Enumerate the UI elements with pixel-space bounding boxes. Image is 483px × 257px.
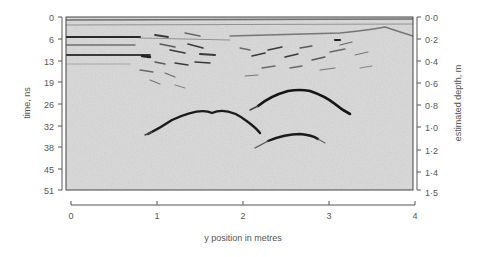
right-tick-label: 1·5 bbox=[425, 188, 438, 198]
left-tick-label: 26 bbox=[44, 100, 54, 110]
left-tick-label: 38 bbox=[44, 143, 54, 153]
left-tick-label: 0 bbox=[49, 13, 54, 23]
left-tick-label: 6 bbox=[49, 35, 54, 45]
right-tick-label: 0·0 bbox=[425, 13, 438, 23]
right-axis-title: estimated depth, m bbox=[453, 65, 463, 142]
left-tick-label: 51 bbox=[44, 186, 54, 196]
right-tick-label: 0·6 bbox=[425, 79, 438, 89]
x-tick-label: 0 bbox=[68, 211, 73, 221]
left-axis: 0 6 13 19 26 32 38 45 51 time, ns bbox=[22, 13, 62, 196]
right-tick-label: 0·4 bbox=[425, 57, 438, 67]
x-tick-label: 1 bbox=[154, 211, 159, 221]
left-tick-label: 13 bbox=[44, 57, 54, 67]
left-tick-label: 32 bbox=[44, 122, 54, 132]
left-axis-title: time, ns bbox=[22, 87, 32, 119]
right-tick-label: 1·0 bbox=[425, 123, 438, 133]
x-tick-label: 2 bbox=[240, 211, 245, 221]
left-tick-label: 45 bbox=[44, 165, 54, 175]
bottom-axis: 0 1 2 3 4 y position in metres bbox=[68, 201, 417, 243]
x-axis-title: y position in metres bbox=[204, 233, 282, 243]
right-tick-label: 0·8 bbox=[425, 101, 438, 111]
x-tick-label: 4 bbox=[412, 211, 417, 221]
right-axis: 0·0 0·2 0·4 0·6 0·8 1·0 1·2 1·4 1·5 esti… bbox=[417, 13, 463, 198]
right-tick-label: 1·2 bbox=[425, 146, 438, 156]
left-tick-label: 19 bbox=[44, 78, 54, 88]
plot-area bbox=[66, 17, 413, 190]
radargram-figure: 0 6 13 19 26 32 38 45 51 time, ns 0·0 bbox=[0, 0, 483, 257]
x-tick-label: 3 bbox=[326, 211, 331, 221]
right-tick-label: 1·4 bbox=[425, 168, 438, 178]
right-tick-label: 0·2 bbox=[425, 35, 438, 45]
